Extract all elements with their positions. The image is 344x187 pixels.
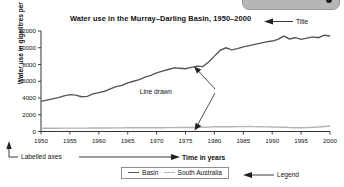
x-axis-label: Time in years [182,154,226,162]
chart-canvas: 020004000600080001000012000 195019551960… [0,0,344,187]
x-axis-ticks: 1950195519601965197019751980198519901995… [34,132,337,144]
legend-item-south-australia[interactable]: South Australia [164,169,222,176]
callout-line-drawn-label: Line drawn [140,88,173,95]
x-tick-label: 1970 [150,137,164,144]
legend-swatch-basin [128,172,139,173]
callout-labelled-axes: Labelled axes Time in years [6,141,225,162]
callout-labelled-axes-label: Labelled axes [21,153,62,160]
y-tick-label: 12000 [19,27,37,34]
y-tick-label: 6000 [22,77,36,84]
y-tick-label: 2000 [22,111,36,118]
line-basin [41,35,330,101]
legend-swatch-south-australia [164,172,175,173]
x-tick-label: 1965 [121,137,135,144]
legend-label-south-australia: South Australia [178,169,222,176]
x-tick-label: 1995 [294,137,308,144]
x-tick-label: 1980 [208,137,222,144]
y-tick-label: 4000 [22,94,36,101]
legend: Basin South Australia [121,167,229,179]
y-tick-label: 8000 [22,61,36,68]
line-south-australia [41,126,330,128]
x-tick-label: 1960 [92,137,106,144]
y-axis-ticks: 020004000600080001000012000 [19,27,41,135]
callout-title-label: Title [296,18,309,25]
legend-item-basin[interactable]: Basin [128,169,159,176]
x-tick-label: 1990 [265,137,279,144]
y-tick-label: 10000 [19,44,37,51]
x-tick-label: 2000 [323,137,337,144]
callout-title: Title [264,18,309,25]
y-tick-label: 0 [33,128,37,135]
x-tick-label: 1950 [34,137,48,144]
x-tick-label: 1985 [236,137,250,144]
x-tick-label: 1975 [179,137,193,144]
legend-label-basin: Basin [142,169,159,176]
x-tick-label: 1955 [63,137,77,144]
chart-screenshot: Water use in the Murray–Darling Basin, 1… [0,0,344,187]
callout-line-drawn: Line drawn [140,67,215,131]
callout-legend-label: Legend [277,171,299,179]
callout-legend: Legend [243,171,299,179]
